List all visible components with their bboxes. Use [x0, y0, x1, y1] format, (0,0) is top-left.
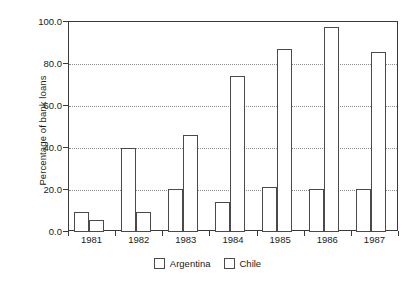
x-tick-mark-5	[304, 231, 305, 236]
legend-item-chile[interactable]: Chile	[224, 258, 262, 269]
x-tick-label-1985: 1985	[270, 234, 291, 245]
x-tick-label-1987: 1987	[364, 234, 385, 245]
x-tick-mark-2	[162, 231, 163, 236]
y-tick-label-20.0: 20.0	[2, 184, 62, 195]
x-tick-mark-1	[115, 231, 116, 236]
bar-chile-1985	[277, 49, 292, 232]
legend-label-argentina: Argentina	[170, 258, 211, 269]
y-tick-label-80.0: 80.0	[2, 58, 62, 69]
y-tick-label-0.0: 0.0	[2, 226, 62, 237]
y-tick-label-100.0: 100.0	[2, 16, 62, 27]
x-tick-mark-0	[68, 231, 69, 236]
x-tick-mark-7	[398, 231, 399, 236]
bar-argentina-1985	[262, 187, 277, 232]
bar-argentina-1986	[309, 189, 324, 232]
x-tick-label-1986: 1986	[317, 234, 338, 245]
bar-chile-1987	[371, 52, 386, 232]
bar-chile-1981	[89, 220, 104, 232]
bar-argentina-1981	[74, 212, 89, 232]
legend-swatch-argentina	[154, 258, 165, 269]
x-tick-mark-3	[209, 231, 210, 236]
x-tick-label-1984: 1984	[222, 234, 243, 245]
x-tick-label-1982: 1982	[128, 234, 149, 245]
bar-argentina-1987	[356, 189, 371, 232]
bar-chile-1983	[183, 135, 198, 232]
chart-legend: ArgentinaChile	[0, 258, 415, 269]
x-tick-label-1983: 1983	[175, 234, 196, 245]
y-tick-label-60.0: 60.0	[2, 100, 62, 111]
bar-chile-1982	[136, 212, 151, 232]
legend-label-chile: Chile	[240, 258, 262, 269]
x-tick-mark-6	[351, 231, 352, 236]
plot-area	[68, 21, 398, 231]
bar-chile-1984	[230, 76, 245, 232]
bar-chile-1986	[324, 27, 339, 232]
legend-item-argentina[interactable]: Argentina	[154, 258, 211, 269]
gridline-80	[69, 64, 397, 65]
bar-argentina-1982	[121, 148, 136, 232]
bar-chart-figure: Percentage of bank loans 0.020.040.060.0…	[0, 0, 415, 286]
x-tick-label-1981: 1981	[81, 234, 102, 245]
bar-argentina-1983	[168, 189, 183, 232]
y-tick-label-40.0: 40.0	[2, 142, 62, 153]
x-tick-mark-4	[257, 231, 258, 236]
legend-swatch-chile	[224, 258, 235, 269]
bar-argentina-1984	[215, 202, 230, 232]
